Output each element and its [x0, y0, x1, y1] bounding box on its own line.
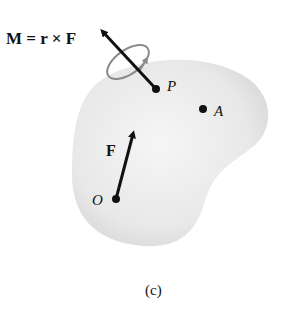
point-p-label: P	[167, 79, 176, 94]
figure-caption: (c)	[145, 283, 162, 298]
point-p-dot	[152, 85, 160, 93]
point-a-label: A	[214, 104, 223, 119]
moment-equation-label: M = r × F	[6, 30, 76, 47]
point-a-dot	[199, 105, 207, 113]
point-o-label: O	[92, 193, 103, 208]
force-label: F	[106, 143, 116, 159]
